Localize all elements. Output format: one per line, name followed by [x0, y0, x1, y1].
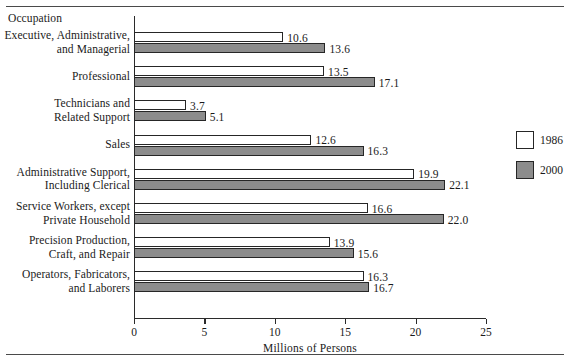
- category-label: Executive, Administrative,and Managerial: [0, 29, 130, 56]
- chart-figure: Occupation Executive, Administrative,and…: [0, 0, 570, 361]
- bar-1986-6: [134, 237, 330, 247]
- bottom-divider-rule: [6, 354, 564, 355]
- category-label-line: Precision Production,: [0, 234, 130, 248]
- bar-value-label: 16.7: [373, 283, 394, 294]
- category-label: Technicians andRelated Support: [0, 97, 130, 124]
- top-divider-rule: [6, 6, 564, 7]
- category-label-line: Private Household: [0, 214, 130, 228]
- category-label-line: Related Support: [0, 111, 130, 125]
- legend-label: 2000: [540, 164, 563, 176]
- bar-value-label: 13.9: [334, 238, 355, 249]
- category-label: Professional: [0, 70, 130, 84]
- category-label: Operators, Fabricators,and Laborers: [0, 268, 130, 295]
- bar-value-label: 3.7: [190, 101, 205, 112]
- x-tick: [204, 319, 205, 324]
- legend-swatch-1986: [516, 131, 534, 149]
- category-label-line: Operators, Fabricators,: [0, 268, 130, 282]
- bar-1986-2: [134, 100, 186, 110]
- category-label: Precision Production,Craft, and Repair: [0, 234, 130, 261]
- bar-2000-2: [134, 111, 206, 121]
- bar-value-label: 12.6: [315, 135, 336, 146]
- category-label-line: Craft, and Repair: [0, 248, 130, 262]
- category-label: Administrative Support,Including Clerica…: [0, 166, 130, 193]
- x-axis-label: Millions of Persons: [134, 342, 486, 354]
- bar-value-label: 17.1: [379, 78, 400, 89]
- x-tick-label: 15: [339, 326, 351, 338]
- bar-1986-5: [134, 203, 368, 213]
- bar-1986-7: [134, 271, 364, 281]
- x-tick: [416, 319, 417, 324]
- y-axis-title: Occupation: [8, 12, 62, 24]
- x-tick: [134, 319, 135, 324]
- bar-value-label: 16.3: [368, 146, 389, 157]
- bar-2000-7: [134, 282, 369, 292]
- bar-2000-3: [134, 146, 364, 156]
- legend-swatch-2000: [516, 161, 534, 179]
- category-label-line: Sales: [0, 138, 130, 152]
- x-tick-label: 10: [269, 326, 281, 338]
- x-tick: [486, 319, 487, 324]
- bar-2000-4: [134, 180, 445, 190]
- bar-2000-1: [134, 77, 375, 87]
- category-label-line: Professional: [0, 70, 130, 84]
- plot-area: Occupation Executive, Administrative,and…: [0, 12, 570, 352]
- category-label-line: Administrative Support,: [0, 166, 130, 180]
- x-tick-label: 20: [410, 326, 422, 338]
- category-label: Service Workers, exceptPrivate Household: [0, 200, 130, 227]
- bar-1986-4: [134, 169, 414, 179]
- bar-1986-1: [134, 66, 324, 76]
- bar-2000-6: [134, 248, 354, 258]
- bar-value-label: 10.6: [287, 33, 308, 44]
- category-label: Sales: [0, 138, 130, 152]
- bar-value-label: 16.6: [372, 204, 393, 215]
- bar-value-label: 15.6: [358, 249, 379, 260]
- bar-value-label: 5.1: [210, 112, 225, 123]
- bar-value-label: 22.1: [449, 180, 470, 191]
- x-tick-label: 25: [480, 326, 492, 338]
- legend-label: 1986: [540, 134, 563, 146]
- category-label-line: Executive, Administrative,: [0, 29, 130, 43]
- category-label-line: and Managerial: [0, 43, 130, 57]
- x-tick-label: 0: [131, 326, 137, 338]
- x-tick: [345, 319, 346, 324]
- x-axis-line: [134, 318, 486, 319]
- category-label-line: Service Workers, except: [0, 200, 130, 214]
- x-tick-label: 5: [202, 326, 208, 338]
- bar-2000-5: [134, 214, 444, 224]
- category-label-line: Technicians and: [0, 97, 130, 111]
- bar-value-label: 13.5: [328, 67, 349, 78]
- x-tick: [275, 319, 276, 324]
- category-label-line: Including Clerical: [0, 179, 130, 193]
- bar-2000-0: [134, 43, 325, 53]
- bar-value-label: 19.9: [418, 169, 439, 180]
- bar-1986-0: [134, 32, 283, 42]
- bar-1986-3: [134, 135, 311, 145]
- bar-value-label: 13.6: [329, 44, 350, 55]
- bar-value-label: 22.0: [448, 215, 469, 226]
- category-label-line: and Laborers: [0, 282, 130, 296]
